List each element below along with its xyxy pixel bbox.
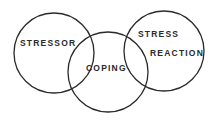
- stressor-circle: [14, 13, 94, 93]
- stressor-label: STRESSOR: [20, 38, 76, 48]
- stress-label: STRESS: [138, 29, 179, 39]
- venn-diagram: STRESSOR COPING STRESS REACTION: [0, 0, 215, 121]
- reaction-label: REACTION: [150, 48, 204, 58]
- coping-label: COPING: [86, 63, 127, 73]
